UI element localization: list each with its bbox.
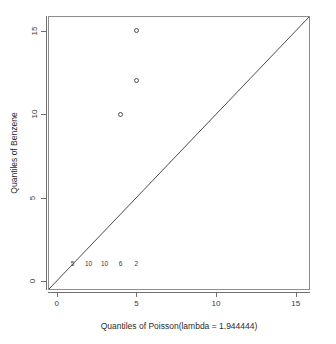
x-axis-tick-label: 5 (134, 300, 138, 308)
y-axis-tick (41, 31, 46, 32)
y-axis-tick-label: 15 (31, 27, 39, 36)
x-axis-tick (216, 292, 217, 297)
reference-line-segment (49, 17, 309, 289)
x-axis-tick-label: 0 (55, 300, 59, 308)
y-axis-line (46, 16, 47, 290)
x-axis-line (48, 292, 310, 293)
x-axis-tick (296, 292, 297, 297)
y-axis-tick-label: 0 (29, 279, 37, 283)
y-axis-tick (41, 281, 46, 282)
x-axis-tick (136, 292, 137, 297)
x-axis-tick-label: 15 (291, 300, 300, 308)
overplot-count-label: 10 (85, 261, 92, 268)
y-axis-tick-label: 5 (29, 195, 37, 199)
overplot-count-label: 10 (101, 261, 108, 268)
x-axis-tick-label: 10 (212, 300, 221, 308)
y-axis-tick-label: 10 (31, 110, 39, 119)
y-axis-title: Quantiles of Benzene (10, 112, 19, 193)
plot-panel (48, 16, 310, 290)
y-axis-tick (41, 114, 46, 115)
overplot-count-label: 6 (119, 261, 123, 268)
qq-plot: 0510150510155101062 Quantiles of Poisson… (0, 0, 336, 344)
x-axis-tick (57, 292, 58, 297)
overplot-count-label: 2 (135, 261, 139, 268)
x-axis-title: Quantiles of Poisson(lambda = 1.944444) (101, 322, 258, 331)
plot-area (49, 17, 309, 289)
identity-reference-line (49, 17, 309, 289)
overplot-count-label: 5 (71, 261, 75, 268)
data-point (118, 112, 123, 117)
y-axis-tick (41, 198, 46, 199)
